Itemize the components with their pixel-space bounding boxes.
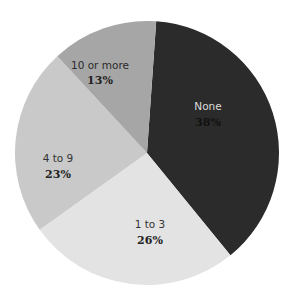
slice-percent-label: 23%	[45, 168, 71, 181]
slice-category-label: None	[194, 100, 221, 112]
pie-chart: None 38% 1 to 3 26% 4 to 9 23% 10 or mor…	[0, 0, 290, 296]
slice-percent-label: 26%	[137, 234, 163, 247]
slice-category-label: 1 to 3	[135, 218, 166, 230]
slice-category-label: 4 to 9	[43, 152, 74, 164]
slice-percent-label: 38%	[195, 116, 221, 129]
slice-percent-label: 13%	[87, 74, 113, 87]
slice-category-label: 10 or more	[71, 59, 129, 71]
